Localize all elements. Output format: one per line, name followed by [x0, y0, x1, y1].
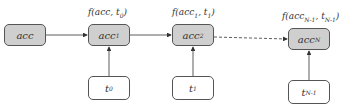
accumulator-label: acc	[99, 30, 116, 41]
accumulator-initial-box: acc	[4, 24, 46, 46]
input-t0-box: t0	[88, 76, 130, 100]
input-subscript: 1	[193, 85, 197, 92]
accumulator-subscript: 1	[116, 32, 120, 39]
accumulator-subscript: 2	[200, 32, 204, 39]
accumulator-label: acc	[183, 30, 200, 41]
accumulator-n-box: accN	[288, 28, 330, 50]
accumulator-label: acc	[298, 34, 315, 45]
function-label-1: f(acc1, t1)	[172, 7, 215, 19]
accumulator-label: acc	[16, 30, 33, 41]
input-t1-box: t1	[172, 76, 214, 100]
input-subscript: 0	[109, 85, 113, 92]
input-tn-1-box: tN-1	[288, 80, 330, 104]
accumulator-1-box: acc1	[88, 24, 130, 46]
function-label-0: f(acc, t0)	[88, 7, 127, 19]
function-label-n: f(accN-1, tN-1)	[282, 11, 339, 23]
accumulator-2-box: acc2	[172, 24, 214, 46]
accumulator-subscript: N	[315, 36, 320, 43]
input-subscript: N-1	[305, 89, 316, 96]
